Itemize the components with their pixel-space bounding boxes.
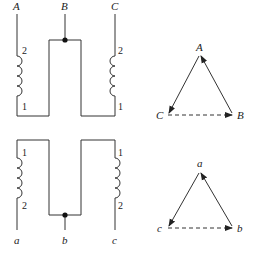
terminal-c-label: c bbox=[112, 234, 117, 246]
coil-a bbox=[17, 158, 22, 198]
vertex-B-label: B bbox=[237, 109, 244, 121]
terminal-b-label: b bbox=[62, 234, 68, 246]
vertex-c-label: c bbox=[157, 222, 162, 234]
terminal-A-label: A bbox=[12, 0, 20, 12]
vertex-C-label: C bbox=[156, 109, 164, 121]
coil-C-bottom-number: 1 bbox=[118, 101, 123, 112]
coil-A-top-number: 2 bbox=[22, 45, 27, 56]
phasor-A-to-C bbox=[169, 56, 199, 113]
terminal-a-label: a bbox=[14, 234, 20, 246]
vertex-b-label: b bbox=[237, 222, 243, 234]
coil-C-top-number: 2 bbox=[118, 45, 123, 56]
coil-C bbox=[110, 56, 115, 96]
junction-dot-b bbox=[62, 212, 67, 217]
phasor-a-to-c bbox=[169, 173, 199, 226]
secondary-winding: 1 2 1 2 a b c bbox=[14, 140, 123, 246]
vertex-A-label: A bbox=[195, 41, 203, 53]
phasor-triangle-lower: a c b bbox=[157, 157, 243, 234]
transformer-diagram: A B C 2 1 2 1 1 2 1 2 a b c bbox=[0, 0, 255, 255]
coil-a-bottom-number: 2 bbox=[22, 200, 27, 211]
phasor-b-to-a bbox=[201, 173, 232, 226]
coil-c bbox=[115, 158, 120, 198]
terminal-B-label: B bbox=[61, 0, 68, 12]
coil-a-top-number: 1 bbox=[22, 147, 27, 158]
coil-A bbox=[17, 56, 22, 96]
primary-winding: A B C 2 1 2 1 bbox=[12, 0, 123, 116]
terminal-C-label: C bbox=[111, 0, 119, 12]
coil-c-top-number: 1 bbox=[118, 147, 123, 158]
phasor-triangle-upper: A C B bbox=[156, 41, 244, 121]
vertex-a-label: a bbox=[197, 157, 203, 169]
junction-dot-B bbox=[62, 37, 67, 42]
coil-c-bottom-number: 2 bbox=[118, 200, 123, 211]
phasor-B-to-A bbox=[201, 56, 232, 113]
coil-A-bottom-number: 1 bbox=[22, 101, 27, 112]
